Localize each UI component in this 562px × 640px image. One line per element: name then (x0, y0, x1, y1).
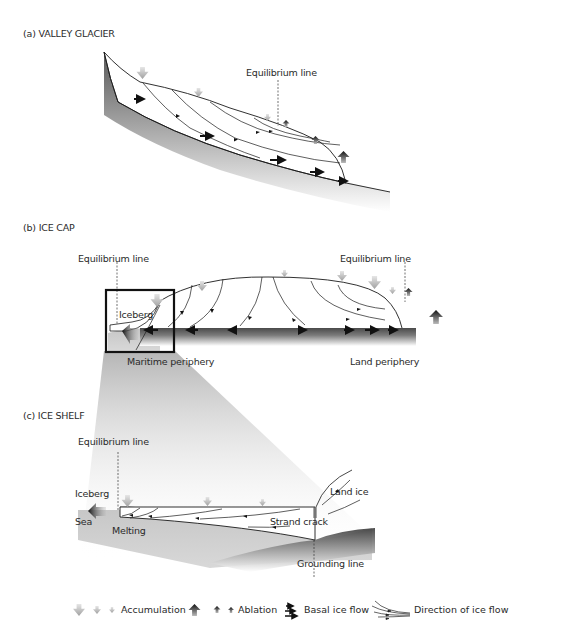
legend-accumulation-label: Accumulation (121, 604, 186, 615)
icecap-equilibrium-line-right-label: Equilibrium line (340, 253, 411, 264)
shelf-iceberg-label: Iceberg (75, 488, 109, 499)
land-ice-label: Land ice (330, 486, 368, 497)
ablation-arrows-icon (189, 604, 201, 616)
glacier-diagram (0, 0, 562, 640)
panel-c-title: (c) ICE SHELF (23, 410, 84, 421)
legend-direction-of-ice-flow-label: Direction of ice flow (414, 604, 508, 615)
sea-label: Sea (75, 516, 92, 527)
ice-cap-panel (106, 262, 443, 352)
icecap-iceberg-label: Iceberg (119, 309, 153, 320)
panel-a-title: (a) VALLEY GLACIER (23, 28, 115, 39)
legend-ablation-label: Ablation (238, 604, 277, 615)
ice-flow-direction-icon (372, 601, 410, 620)
accumulation-arrows-icon (73, 604, 85, 616)
icecap-equilibrium-line-left-label: Equilibrium line (78, 253, 149, 264)
maritime-periphery-label: Maritime periphery (127, 356, 214, 367)
land-periphery-label: Land periphery (350, 356, 419, 367)
grounding-line-label: Grounding line (297, 558, 364, 569)
valley-equilibrium-line-label: Equilibrium line (246, 67, 317, 78)
melting-label: Melting (112, 525, 146, 536)
panel-b-title: (b) ICE CAP (23, 222, 75, 233)
strand-crack-label: Strand crack (270, 516, 328, 527)
basal-ice-flow-icon (285, 606, 295, 616)
shelf-equilibrium-line-label: Equilibrium line (78, 436, 149, 447)
legend-basal-ice-flow-label: Basal ice flow (304, 604, 369, 615)
